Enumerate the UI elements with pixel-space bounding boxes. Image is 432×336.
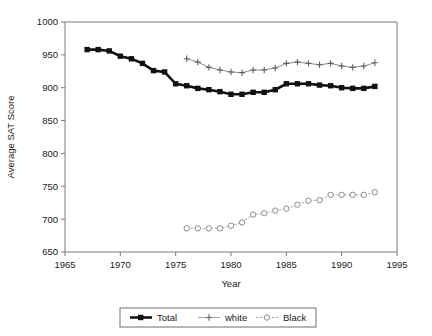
x-axis-title: Year [221, 278, 240, 289]
data-point-marker [217, 226, 222, 231]
x-tick-label: 1965 [54, 259, 75, 270]
data-point-marker [184, 226, 189, 231]
data-point-marker [206, 226, 211, 231]
data-point-marker [250, 90, 255, 95]
data-point-marker [151, 68, 156, 73]
chart-canvas: 6507007508008509009501000 19651970197519… [0, 0, 432, 336]
x-tick-label: 1975 [165, 259, 186, 270]
x-tick-label: 1970 [110, 259, 131, 270]
data-point-marker [217, 89, 222, 94]
data-point-marker [317, 197, 322, 202]
x-tick-label: 1995 [386, 259, 407, 270]
legend-swatch-marker [138, 315, 143, 320]
y-tick-label: 800 [42, 148, 58, 159]
data-point-marker [206, 87, 211, 92]
data-point-marker [339, 85, 344, 90]
data-point-marker [306, 81, 311, 86]
data-point-marker [250, 212, 255, 217]
legend-label-black: Black [283, 312, 306, 323]
y-tick-label: 950 [42, 49, 58, 60]
y-axis-title: Average SAT Score [5, 96, 16, 179]
data-point-marker [140, 61, 145, 66]
data-point-marker [284, 206, 289, 211]
data-point-marker [118, 53, 123, 58]
x-tick-label: 1985 [276, 259, 297, 270]
legend-label-white: white [224, 312, 247, 323]
data-point-marker [107, 48, 112, 53]
data-point-marker [372, 84, 377, 89]
data-point-marker [162, 69, 167, 74]
y-tick-label: 1000 [37, 16, 58, 27]
chart-legend: TotalwhiteBlack [120, 308, 316, 327]
data-point-marker [284, 81, 289, 86]
data-point-marker [84, 47, 89, 52]
data-point-marker [262, 211, 267, 216]
data-point-marker [295, 81, 300, 86]
data-point-marker [96, 47, 101, 52]
y-tick-label: 700 [42, 214, 58, 225]
data-point-marker [317, 82, 322, 87]
data-point-marker [306, 198, 311, 203]
y-tick-label: 850 [42, 115, 58, 126]
data-point-marker [350, 86, 355, 91]
data-point-marker [273, 208, 278, 213]
sat-score-line-chart: 6507007508008509009501000 19651970197519… [0, 0, 432, 336]
data-point-marker [228, 92, 233, 97]
data-point-marker [339, 192, 344, 197]
data-point-marker [228, 223, 233, 228]
data-point-marker [129, 56, 134, 61]
data-point-marker [262, 90, 267, 95]
y-tick-label: 900 [42, 82, 58, 93]
data-point-marker [328, 83, 333, 88]
data-point-marker [350, 192, 355, 197]
data-point-marker [372, 190, 377, 195]
y-tick-label: 750 [42, 181, 58, 192]
x-tick-label: 1990 [331, 259, 352, 270]
legend-label-total: Total [157, 312, 177, 323]
data-point-marker [273, 87, 278, 92]
data-point-marker [295, 202, 300, 207]
data-point-marker [195, 86, 200, 91]
data-point-marker [184, 83, 189, 88]
data-point-marker [328, 192, 333, 197]
data-point-marker [361, 86, 366, 91]
data-point-marker [195, 226, 200, 231]
x-tick-label: 1980 [220, 259, 241, 270]
legend-swatch-marker [264, 315, 269, 320]
y-tick-label: 650 [42, 246, 58, 257]
data-point-marker [361, 192, 366, 197]
data-point-marker [239, 220, 244, 225]
data-point-marker [173, 81, 178, 86]
data-point-marker [239, 92, 244, 97]
